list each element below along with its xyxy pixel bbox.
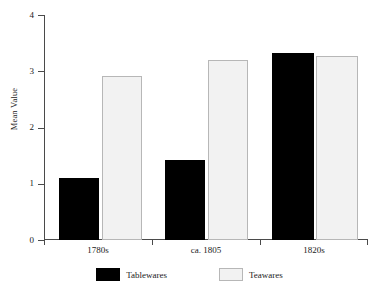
y-axis-label: Mean Value <box>9 79 19 139</box>
y-tick-3: 3 <box>38 71 45 72</box>
bar-teawares-ca1805 <box>208 60 248 240</box>
legend: Tablewares Teawares <box>0 268 379 281</box>
bar-teawares-1820s <box>316 56 358 241</box>
bar-tablewares-ca1805 <box>165 160 205 240</box>
legend-swatch-tablewares <box>96 268 120 281</box>
legend-label-teawares: Teawares <box>249 270 283 280</box>
y-tick-label-3: 3 <box>30 65 35 77</box>
bar-chart: Mean Value 4 3 2 1 0 <box>0 0 379 301</box>
bar-teawares-1780s <box>102 76 142 240</box>
x-category-label-1780s: 1780s <box>44 245 152 255</box>
legend-swatch-teawares <box>219 268 243 281</box>
legend-item-tablewares: Tablewares <box>96 268 167 281</box>
x-category-label-1820s: 1820s <box>260 245 368 255</box>
bar-tablewares-1780s <box>59 178 99 240</box>
legend-item-teawares: Teawares <box>219 268 283 281</box>
y-tick-label-1: 1 <box>30 177 35 189</box>
plot-area: 4 3 2 1 0 <box>44 15 368 240</box>
y-tick-label-2: 2 <box>30 121 35 133</box>
y-tick-4: 4 <box>38 15 45 16</box>
y-tick-label-4: 4 <box>30 9 35 21</box>
y-tick-label-0: 0 <box>30 234 35 246</box>
legend-label-tablewares: Tablewares <box>126 270 167 280</box>
x-category-label-ca1805: ca. 1805 <box>152 245 260 255</box>
y-tick-2: 2 <box>38 128 45 129</box>
bar-tablewares-1820s <box>272 53 314 240</box>
y-tick-1: 1 <box>38 184 45 185</box>
